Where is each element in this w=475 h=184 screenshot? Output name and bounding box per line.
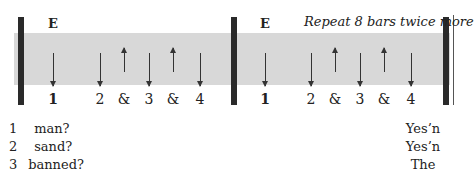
strum-down-arrow-icon bbox=[411, 53, 412, 86]
beat-count: 2 bbox=[96, 91, 105, 107]
beat-count: 3 bbox=[356, 91, 365, 107]
answer-line: Yes’n bbox=[398, 121, 448, 136]
lyric-line: 1 man? bbox=[9, 121, 70, 136]
beat-count: 2 bbox=[307, 91, 316, 107]
beat-count: & bbox=[118, 91, 130, 107]
beat-count: 1 bbox=[48, 91, 58, 107]
chord-label: E bbox=[260, 16, 270, 31]
lyric-text: sand? bbox=[34, 139, 72, 154]
chord-label: E bbox=[48, 16, 58, 31]
beat-count: 4 bbox=[407, 91, 416, 107]
repeat-instruction: Repeat 8 bars twice more bbox=[304, 14, 474, 29]
beat-count: & bbox=[329, 91, 341, 107]
lyric-number: 2 bbox=[9, 139, 23, 154]
lyric-number: 3 bbox=[9, 157, 23, 172]
lyric-number: 1 bbox=[9, 121, 23, 136]
lyric-text: man? bbox=[34, 121, 69, 136]
strum-down-arrow-icon bbox=[100, 53, 101, 86]
bar-line-end-thick bbox=[443, 17, 449, 105]
strum-down-arrow-icon bbox=[200, 53, 201, 86]
strum-up-arrow-icon bbox=[384, 48, 385, 72]
strum-down-arrow-icon bbox=[360, 53, 361, 86]
strum-up-arrow-icon bbox=[124, 48, 125, 72]
beat-count: & bbox=[378, 91, 390, 107]
answer-line: Yes’n bbox=[398, 139, 448, 154]
beat-count: 1 bbox=[260, 91, 270, 107]
beat-count: & bbox=[167, 91, 179, 107]
bar-line-start bbox=[18, 17, 24, 105]
strum-down-arrow-icon bbox=[149, 53, 150, 86]
bar-line-middle bbox=[231, 17, 237, 105]
strum-up-arrow-icon bbox=[173, 48, 174, 72]
lyric-line: 2 sand? bbox=[9, 139, 72, 154]
beat-count: 4 bbox=[196, 91, 205, 107]
answer-line: The bbox=[398, 157, 448, 172]
strum-down-arrow-icon bbox=[265, 53, 266, 86]
lyric-text: banned? bbox=[28, 157, 84, 172]
strum-down-arrow-icon bbox=[311, 53, 312, 86]
strum-up-arrow-icon bbox=[335, 48, 336, 72]
lyric-line: 3 banned? bbox=[9, 157, 84, 172]
beat-count: 3 bbox=[145, 91, 154, 107]
strum-down-arrow-icon bbox=[53, 53, 54, 86]
